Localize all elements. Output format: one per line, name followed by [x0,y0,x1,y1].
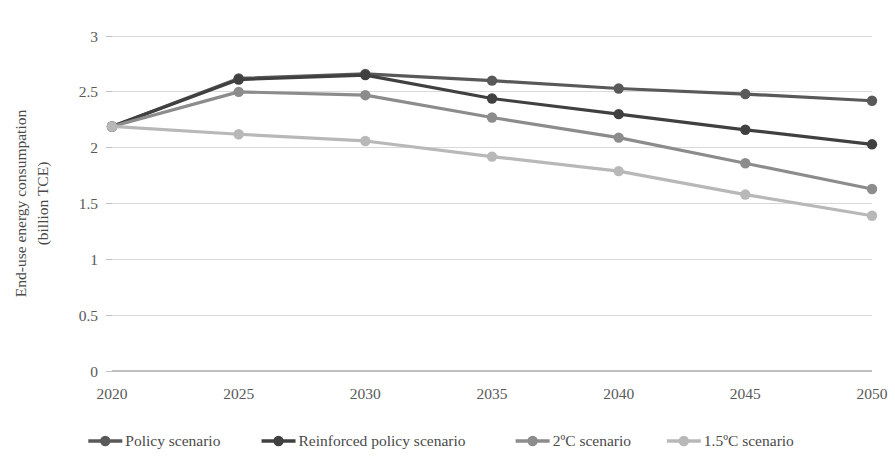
y-axis-tick-label: 1 [90,251,98,268]
series-data-point [740,189,750,199]
y-axis-title-line: End-use energy consumpation [12,110,29,298]
series-data-point [740,89,750,99]
data-series [107,121,877,221]
legend-marker-swatch [100,436,110,446]
y-axis-tick-label: 1.5 [79,195,99,212]
x-axis-tick-label: 2045 [730,385,761,402]
y-axis-tick-label: 0 [90,363,98,380]
series-data-point [867,139,877,149]
y-axis-title: End-use energy consumpation(billion TCE) [12,110,52,298]
series-data-point [613,83,623,93]
x-axis-tick-label: 2040 [603,385,634,402]
series-data-point [487,75,497,85]
legend-item-label: 1.5ºC scenario [704,432,794,449]
y-axis-title-line: (billion TCE) [34,162,52,246]
series-data-point [487,93,497,103]
series-data-point [360,70,370,80]
series-data-point [740,158,750,168]
legend-item[interactable]: 1.5ºC scenario [667,432,794,449]
series-data-point [233,74,243,84]
legend-item[interactable]: Policy scenario [88,432,220,449]
y-axis-tick-label: 2 [90,139,98,156]
series-data-point [613,132,623,142]
series-data-point [360,136,370,146]
legend-item[interactable]: 2ºC scenario [516,432,632,449]
x-axis-tick-label: 2050 [857,385,888,402]
y-axis-tick-label: 3 [90,28,98,45]
y-axis-tick-label: 0.5 [79,307,99,324]
series-data-point [740,125,750,135]
series-data-point [487,112,497,122]
legend-item-label: 2ºC scenario [553,432,632,449]
series-data-point [613,109,623,119]
chart-legend: Policy scenarioReinforced policy scenari… [88,432,794,449]
series-line [112,126,872,215]
legend-item-label: Policy scenario [125,432,220,449]
y-axis-ticks-group: 00.511.522.53 [79,28,112,380]
series-data-point [360,90,370,100]
series-data-point [867,96,877,106]
gridlines-group [112,36,872,371]
x-axis-ticks-group: 2020202520302035204020452050 [97,385,888,402]
line-chart-figure: 00.511.522.53 20202025203020352040204520… [0,0,895,472]
series-data-point [107,121,117,131]
x-axis-tick-label: 2035 [477,385,508,402]
legend-marker-swatch [273,436,283,446]
series-data-point [233,87,243,97]
chart-canvas: 00.511.522.53 20202025203020352040204520… [0,0,895,472]
legend-item-label: Reinforced policy scenario [299,432,466,449]
legend-marker-swatch [527,436,537,446]
series-data-point [487,151,497,161]
series-data-point [867,184,877,194]
legend-item[interactable]: Reinforced policy scenario [262,432,466,449]
x-axis-tick-label: 2025 [223,385,254,402]
series-line [112,92,872,189]
y-axis-tick-label: 2.5 [79,83,99,100]
x-axis-tick-label: 2030 [350,385,381,402]
series-data-point [867,211,877,221]
x-axis-tick-label: 2020 [97,385,128,402]
series-data-point [233,129,243,139]
legend-marker-swatch [679,436,689,446]
series-data-point [613,166,623,176]
